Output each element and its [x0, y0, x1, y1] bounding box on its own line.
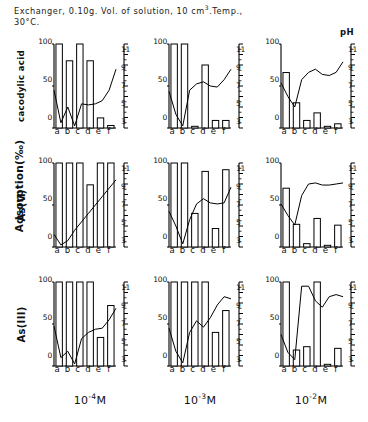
adsorption-bar[interactable]	[87, 61, 93, 128]
plot-area-7[interactable]	[167, 280, 229, 364]
caption-line-2: 30°C.	[14, 17, 40, 27]
x-tick-label: d	[198, 126, 208, 136]
ph-line[interactable]	[54, 180, 116, 245]
axis-frame	[281, 44, 343, 128]
ph-line[interactable]	[281, 286, 343, 360]
adsorption-bar[interactable]	[202, 171, 208, 247]
adsorption-bar[interactable]	[171, 163, 177, 247]
adsorption-bar[interactable]	[314, 218, 320, 247]
chart-panel-5[interactable]: 100500119753abcdef	[257, 155, 357, 273]
x-axis-labels-0: abcdef	[52, 126, 114, 136]
x-tick-label: a	[52, 126, 62, 136]
plot-area-6[interactable]	[52, 280, 114, 364]
adsorption-bar[interactable]	[87, 282, 93, 366]
y-tick-label: 50	[32, 75, 52, 84]
adsorption-bar[interactable]	[171, 282, 177, 366]
plot-area-4[interactable]	[167, 161, 229, 245]
adsorption-bar[interactable]	[87, 185, 93, 247]
chart-panel-7[interactable]: 100500119753abcdef	[145, 274, 245, 392]
ph-line[interactable]	[281, 183, 343, 225]
ph-line[interactable]	[54, 69, 116, 126]
plot-area-2[interactable]	[279, 42, 341, 126]
ph-line[interactable]	[54, 308, 116, 364]
x-tick-label: c	[188, 126, 198, 136]
adsorption-bar[interactable]	[97, 163, 103, 247]
conc-unit-0: M	[96, 394, 106, 407]
adsorption-bar[interactable]	[192, 213, 198, 247]
adsorption-bar[interactable]	[212, 332, 218, 366]
chart-panel-8[interactable]: 100500119753abcdef	[257, 274, 357, 392]
y-tick-label: 0	[147, 113, 167, 122]
x-tick-label: b	[62, 364, 72, 374]
y-axis-ticks-2: 100500	[257, 36, 279, 132]
chart-panel-1[interactable]: 100500119753abcdef	[145, 36, 245, 154]
chart-panel-6[interactable]: 100500119753abcdef	[30, 274, 130, 392]
y-tick-label: 100	[32, 156, 52, 165]
x-tick-label: d	[198, 364, 208, 374]
x-axis-labels-1: abcdef	[167, 126, 229, 136]
y-tick-label: 50	[32, 313, 52, 322]
adsorption-bar[interactable]	[77, 163, 83, 247]
ph-line[interactable]	[169, 297, 231, 363]
adsorption-bar[interactable]	[314, 282, 320, 366]
y-tick-label: 50	[259, 75, 279, 84]
x-axis-labels-8: abcdef	[279, 364, 341, 374]
adsorption-bar[interactable]	[202, 65, 208, 128]
y-tick-label: 100	[259, 37, 279, 46]
adsorption-bar[interactable]	[283, 188, 289, 247]
adsorption-bar[interactable]	[223, 170, 229, 247]
x-tick-label: e	[208, 245, 218, 255]
plot-area-1[interactable]	[167, 42, 229, 126]
plot-area-0[interactable]	[52, 42, 114, 126]
adsorption-bar[interactable]	[293, 224, 299, 247]
ph-line[interactable]	[281, 62, 343, 107]
ph-line[interactable]	[169, 69, 231, 126]
x-tick-label: d	[83, 245, 93, 255]
x-tick-label: b	[177, 364, 187, 374]
x-tick-label: d	[83, 364, 93, 374]
concentration-label-col-2: 10-2M	[266, 392, 356, 407]
x-tick-label: f	[104, 245, 114, 255]
x-axis-labels-3: abcdef	[52, 245, 114, 255]
x-axis-labels-2: abcdef	[279, 126, 341, 136]
chart-row-1: As(V)100500119753abcdef100500119753abcde…	[0, 155, 368, 274]
axis-frame	[54, 163, 116, 247]
conc-unit-2: M	[317, 394, 327, 407]
x-axis-labels-7: abcdef	[167, 364, 229, 374]
y-axis-ticks-3: 100500	[30, 155, 52, 251]
x-tick-label: a	[52, 364, 62, 374]
plot-area-5[interactable]	[279, 161, 341, 245]
plot-area-3[interactable]	[52, 161, 114, 245]
adsorption-bar[interactable]	[108, 163, 114, 247]
y-axis-ticks-8: 100500	[257, 274, 279, 370]
adsorption-bar[interactable]	[108, 306, 114, 366]
adsorption-bar[interactable]	[181, 163, 187, 247]
chart-panel-3[interactable]: 100500119753abcdef	[30, 155, 130, 273]
x-tick-label: b	[62, 245, 72, 255]
x-tick-label: e	[93, 126, 103, 136]
y-tick-label: 50	[259, 313, 279, 322]
x-tick-label: b	[62, 126, 72, 136]
x-tick-label: d	[310, 364, 320, 374]
chart-panel-2[interactable]: 100500119753abcdef	[257, 36, 357, 154]
chart-panel-4[interactable]: 100500119753abcdef	[145, 155, 245, 273]
adsorption-bar[interactable]	[335, 225, 341, 247]
x-tick-label: a	[279, 245, 289, 255]
plot-area-8[interactable]	[279, 280, 341, 364]
adsorption-bar[interactable]	[56, 163, 62, 247]
adsorption-bar[interactable]	[283, 73, 289, 128]
x-tick-label: f	[331, 364, 341, 374]
adsorption-bar[interactable]	[97, 337, 103, 366]
chart-panel-0[interactable]: 100500119753abcdef	[30, 36, 130, 154]
adsorption-bar[interactable]	[66, 282, 72, 366]
y-axis-ticks-0: 100500	[30, 36, 52, 132]
y-tick-label: 0	[259, 351, 279, 360]
concentration-label-col-1: 10-3M	[155, 392, 245, 407]
x-tick-label: a	[279, 364, 289, 374]
adsorption-bar[interactable]	[56, 282, 62, 366]
conc-base-2: 10	[295, 394, 310, 407]
x-tick-label: b	[177, 245, 187, 255]
adsorption-bar[interactable]	[223, 311, 229, 366]
ph-line[interactable]	[169, 187, 231, 244]
x-tick-label: d	[83, 126, 93, 136]
